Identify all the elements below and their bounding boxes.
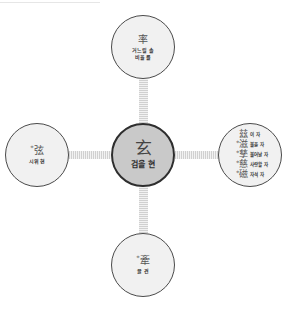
entry-gloss: 불어날 자 xyxy=(250,152,268,158)
node-left: *弦 시위 현 xyxy=(5,123,69,187)
entry-gloss: 자석 자 xyxy=(250,172,264,178)
node-bottom-hanja-char: 牽 xyxy=(140,255,150,266)
entry-hanja: *磁 xyxy=(236,170,248,180)
entry-gloss: 불을 자 xyxy=(250,142,264,148)
node-top-gloss: 거느릴 솔 비율 률 xyxy=(132,47,154,61)
node-center-hanja: 玄 xyxy=(135,139,152,158)
node-top-gloss-line: 거느릴 솔 xyxy=(132,47,154,54)
connector-left xyxy=(69,151,111,159)
entry-gloss: 이 자 xyxy=(250,132,260,138)
entry-hanja-char: 滋 xyxy=(239,139,248,149)
connector-bottom xyxy=(139,187,148,233)
node-center-gloss: 검을 현 xyxy=(131,160,155,171)
connector-right xyxy=(175,151,219,159)
entry-hanja-char: 慈 xyxy=(239,159,248,169)
node-right-list: 玆 이 자 *滋 불을 자 *孳 불어날 자 *慈 사랑할 자 *磁 자석 자 xyxy=(232,130,268,180)
node-bottom-gloss: 끌 견 xyxy=(137,268,149,275)
entry-hanja-char: 孳 xyxy=(239,149,248,159)
hanja-family-diagram: 率 거느릴 솔 비율 률 玄 검을 현 *弦 시위 현 *牽 끌 견 玆 이 자… xyxy=(0,0,285,309)
node-top: 率 거느릴 솔 비율 률 xyxy=(111,15,175,79)
node-left-hanja-char: 弦 xyxy=(34,145,44,156)
node-top-gloss-line: 비율 률 xyxy=(132,54,154,61)
node-top-hanja: 率 xyxy=(138,34,148,45)
top-edge-line xyxy=(0,2,100,3)
entry-gloss: 사랑할 자 xyxy=(250,162,268,168)
node-right: 玆 이 자 *滋 불을 자 *孳 불어날 자 *慈 사랑할 자 *磁 자석 자 xyxy=(218,123,282,187)
node-center: 玄 검을 현 xyxy=(111,123,175,187)
connector-top xyxy=(139,79,148,123)
node-bottom-hanja: *牽 xyxy=(137,255,150,266)
node-left-hanja: *弦 xyxy=(31,145,44,156)
node-bottom: *牽 끌 견 xyxy=(111,233,175,297)
node-left-gloss: 시위 현 xyxy=(29,158,46,165)
entry-hanja-char: 磁 xyxy=(239,169,248,179)
list-item: *磁 자석 자 xyxy=(236,170,264,180)
